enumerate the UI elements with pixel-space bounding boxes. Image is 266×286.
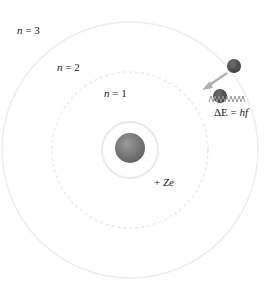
transition-arrow-icon	[202, 73, 227, 90]
label-n3: n = 3	[17, 24, 40, 36]
bohr-diagram	[0, 0, 266, 286]
photon-wave-icon	[209, 96, 245, 102]
label-n1: n = 1	[104, 87, 127, 99]
label-n2: n = 2	[57, 61, 80, 73]
electron-initial	[227, 59, 241, 73]
nucleus	[115, 133, 145, 163]
energy-label: ΔE = hf	[214, 106, 248, 118]
nucleus-charge-label: + Ze	[154, 176, 174, 188]
